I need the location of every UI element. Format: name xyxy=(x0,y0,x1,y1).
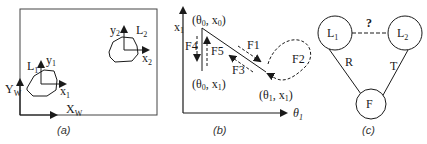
link2-label: L2 xyxy=(136,23,147,39)
link1-x-label: x1 xyxy=(60,84,70,100)
link1-y-label: y1 xyxy=(46,53,56,68)
force-f4-label: F4 xyxy=(185,39,198,53)
panel-a: YW XW L1 y1 x1 y2 L2 x2 (a) xyxy=(5,9,157,136)
edge-unknown-label: ? xyxy=(366,16,372,30)
force-f3-label: F3 xyxy=(232,63,245,77)
edge-r-label: R xyxy=(345,55,353,69)
caption-a: (a) xyxy=(57,124,71,136)
world-y-label: YW xyxy=(5,82,22,98)
panel-b: x1 θ1 (θ0, x0) (θ0, x1) (θ1, x1) F4 F5 F… xyxy=(174,8,311,136)
force-f2-label: F2 xyxy=(292,52,305,66)
edge-t-label: T xyxy=(390,59,398,73)
force-f5-label: F5 xyxy=(211,44,224,58)
link2-y-label: y2 xyxy=(110,23,120,38)
node-f-label: F xyxy=(366,97,373,111)
link2-x-label: x2 xyxy=(142,51,152,67)
link1-shape xyxy=(27,70,57,96)
world-x-label: XW xyxy=(66,102,83,118)
point-bottom-label: (θ0, x1) xyxy=(192,77,226,92)
panel-c: L1 L2 F ? R T (c) xyxy=(318,16,422,136)
b-x-axis-label: θ1 xyxy=(293,106,303,122)
edge-l2-f xyxy=(382,50,408,97)
point-top-label: (θ0, x0) xyxy=(192,13,226,28)
figure-canvas: YW XW L1 y1 x1 y2 L2 x2 (a) x1 θ1 (θ0, x… xyxy=(0,0,427,144)
caption-c: (c) xyxy=(362,124,375,136)
caption-b: (b) xyxy=(213,124,227,136)
link1-label: L1 xyxy=(27,59,38,75)
point-right-label: (θ1, x1) xyxy=(259,88,293,103)
force-f1-label: F1 xyxy=(247,38,260,52)
